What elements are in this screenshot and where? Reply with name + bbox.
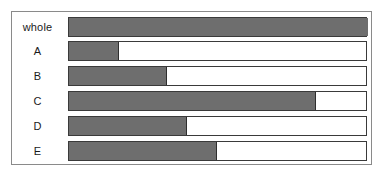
bar-row: C: [12, 91, 371, 111]
bar-track: [68, 141, 367, 161]
bar-row: E: [12, 141, 371, 161]
bar-rows: wholeABCDE: [12, 12, 371, 164]
bar-fill: [69, 92, 316, 110]
bar-row: A: [12, 41, 371, 61]
bar-track: [68, 116, 367, 136]
bar-track: [68, 41, 367, 61]
bar-fill: [69, 18, 368, 36]
bar-row: B: [12, 66, 371, 86]
bar-row-label: whole: [12, 17, 63, 37]
bar-row-label: D: [12, 116, 63, 136]
bar-row-label: A: [12, 41, 63, 61]
bar-fill: [69, 42, 119, 60]
bar-fill: [69, 117, 187, 135]
figure-frame: wholeABCDE: [11, 11, 372, 165]
bar-row-label: C: [12, 91, 63, 111]
bar-fill: [69, 67, 167, 85]
bar-row-label: E: [12, 141, 63, 161]
bar-fill: [69, 142, 217, 160]
bar-row-label: B: [12, 66, 63, 86]
bar-row: whole: [12, 17, 371, 37]
bar-track: [68, 66, 367, 86]
bar-track: [68, 17, 367, 37]
bar-row: D: [12, 116, 371, 136]
bar-figure: wholeABCDE: [0, 0, 385, 177]
bar-track: [68, 91, 367, 111]
